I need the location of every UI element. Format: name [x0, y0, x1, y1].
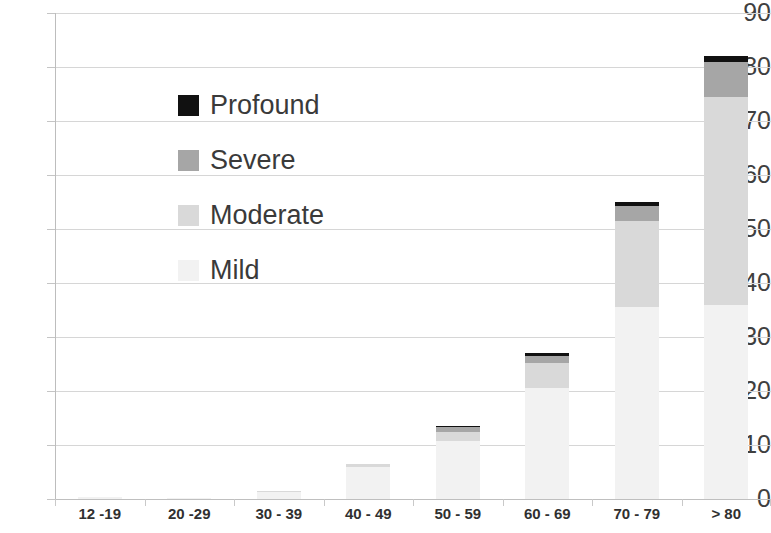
x-axis-tick-label: > 80 [682, 505, 771, 523]
bar-segment-moderate[interactable] [436, 432, 480, 441]
legend-swatch-icon [178, 260, 199, 281]
bar-segment-mild[interactable] [436, 441, 480, 499]
y-axis-tick-mark [47, 67, 55, 68]
bar-segment-profound[interactable] [704, 56, 748, 61]
bar-segment-mild[interactable] [704, 305, 748, 499]
bar-segment-moderate[interactable] [346, 464, 390, 467]
y-axis-tick-mark [47, 229, 55, 230]
legend-item-moderate[interactable]: Moderate [178, 188, 324, 243]
y-axis-tick-mark [47, 499, 55, 500]
bar-segment-mild[interactable] [167, 498, 211, 499]
bar-group[interactable] [704, 13, 748, 499]
y-axis-tick-mark [47, 175, 55, 176]
x-axis-tick-label: 50 - 59 [413, 505, 503, 523]
legend-item-label: Severe [210, 147, 296, 174]
bar-segment-mild[interactable] [78, 497, 122, 499]
x-axis-tick-label: 30 - 39 [234, 505, 324, 523]
x-axis-tick-label: 20 -29 [145, 505, 235, 523]
x-axis-tick-label: 40 - 49 [324, 505, 414, 523]
bar-group[interactable] [615, 13, 659, 499]
legend-item-label: Mild [210, 257, 260, 284]
bar-segment-mild[interactable] [346, 467, 390, 499]
bar-segment-moderate[interactable] [615, 221, 659, 307]
bar-segment-profound[interactable] [525, 353, 569, 356]
bar-segment-severe[interactable] [704, 62, 748, 97]
bar-group[interactable] [525, 13, 569, 499]
x-axis-tick-label: 12 -19 [55, 505, 145, 523]
x-axis-tick-label: 60 - 69 [503, 505, 593, 523]
bar-segment-mild[interactable] [615, 307, 659, 499]
legend-item-label: Moderate [210, 202, 324, 229]
bar-segment-severe[interactable] [436, 427, 480, 432]
bar-segment-severe[interactable] [525, 356, 569, 363]
bar-segment-moderate[interactable] [257, 491, 301, 492]
legend-swatch-icon [178, 205, 199, 226]
legend-item-label: Profound [210, 92, 320, 119]
legend-item-mild[interactable]: Mild [178, 243, 324, 298]
y-axis-tick-mark [47, 337, 55, 338]
legend-swatch-icon [178, 95, 199, 116]
y-axis-tick-mark [47, 391, 55, 392]
x-axis-tick-label: 70 - 79 [592, 505, 682, 523]
bar-group[interactable] [436, 13, 480, 499]
y-axis-tick-mark [47, 121, 55, 122]
bar-group[interactable] [78, 13, 122, 499]
bar-segment-profound[interactable] [436, 426, 480, 427]
y-axis-tick-mark [47, 445, 55, 446]
legend-swatch-icon [178, 150, 199, 171]
bar-segment-moderate[interactable] [525, 363, 569, 388]
legend-item-profound[interactable]: Profound [178, 78, 324, 133]
bar-segment-profound[interactable] [615, 202, 659, 206]
bar-segment-mild[interactable] [525, 388, 569, 499]
bar-segment-moderate[interactable] [704, 97, 748, 305]
stacked-bar-chart: 9080706050403020100 12 -1920 -2930 - 394… [0, 0, 771, 533]
bar-segment-severe[interactable] [615, 206, 659, 221]
legend-item-severe[interactable]: Severe [178, 133, 324, 188]
y-axis-tick-mark [47, 13, 55, 14]
y-axis-tick-mark [47, 283, 55, 284]
bar-segment-mild[interactable] [257, 492, 301, 499]
bar-group[interactable] [346, 13, 390, 499]
chart-legend: ProfoundSevereModerateMild [178, 78, 324, 298]
plot-area [55, 13, 771, 499]
